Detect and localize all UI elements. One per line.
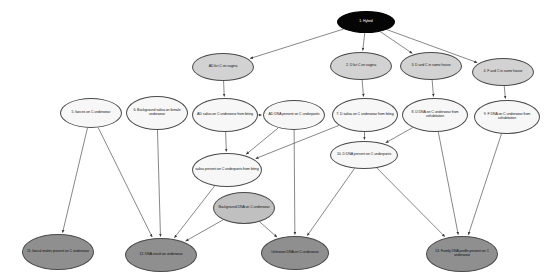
node-label: 10. D DNA present on C underpants xyxy=(333,153,395,157)
node-n12[interactable]: 12. DNA result on underwear xyxy=(125,238,197,272)
node-label: 12. DNA result on underwear xyxy=(128,253,194,257)
node-nS[interactable]: saliva present on C underpants from biti… xyxy=(192,153,262,187)
node-label: 13. Family DNA profile present on C unde… xyxy=(429,250,495,257)
node-n4[interactable]: 4. F and C in same house xyxy=(472,58,534,86)
node-nAD1[interactable]: AD lict C on vagina xyxy=(192,53,254,81)
node-label: Unknown DNA on C underwear xyxy=(264,251,326,255)
edge-n1-to-n3 xyxy=(380,32,412,54)
node-n11[interactable]: 11. faecal matter present on C underwear xyxy=(22,234,94,270)
node-n5[interactable]: 5. faeces on C underwear xyxy=(60,98,122,128)
edge-nAD3-to-nU xyxy=(294,130,295,235)
edge-n2-to-n7 xyxy=(362,80,363,97)
node-nAD3[interactable]: AD DNA present on C underpants xyxy=(263,100,325,130)
edge-n1-to-n2 xyxy=(363,33,365,51)
node-n7[interactable]: 7. D saliva on C underwear from biting xyxy=(332,98,398,132)
node-label: 9. F DNA on C underwear from cohabitatio… xyxy=(477,113,537,120)
node-label: 7. D saliva on C underwear from biting xyxy=(335,113,395,117)
edge-n8-to-n10 xyxy=(386,128,413,143)
node-label: AD lict C on vagina xyxy=(195,65,251,69)
edge-n8-to-n13 xyxy=(438,132,458,235)
node-label: 5. faeces on C underwear xyxy=(63,111,119,115)
edge-n10-to-nU xyxy=(307,168,354,235)
node-n1[interactable]: 1. Hybrid xyxy=(337,11,395,33)
edge-n4-to-n9 xyxy=(504,86,505,99)
edge-nBG-to-nU xyxy=(260,222,277,237)
edge-n9-to-n13 xyxy=(468,134,501,235)
node-label: AD DNA present on C underpants xyxy=(266,113,322,117)
edge-nAD2-to-nS xyxy=(226,132,227,152)
edge-nAD1-to-nAD2 xyxy=(224,81,225,97)
node-label: 1. Hybrid xyxy=(340,20,392,24)
node-label: 2. D lict C on vagina xyxy=(333,64,389,68)
edge-n3-to-n8 xyxy=(432,80,433,97)
node-nU[interactable]: Unknown DNA on C underwear xyxy=(261,236,329,270)
node-label: AD saliva on C underwear from biting xyxy=(195,113,255,117)
node-label: 4. F and C in same house xyxy=(475,70,531,74)
node-label: 6. Background saliva on female underwear xyxy=(129,109,185,116)
edge-n7-to-nS xyxy=(256,125,339,158)
node-nBG[interactable]: Background DNA on C underwear xyxy=(213,192,275,224)
edge-nAD3-to-nS xyxy=(246,128,278,154)
diagram-canvas: 1. Hybrid2. D lict C on vagina3. D and C… xyxy=(0,0,546,280)
node-label: 3. D and C in same house xyxy=(403,64,459,68)
edge-nS-to-n12 xyxy=(174,186,214,238)
edge-n5-to-n12 xyxy=(98,128,152,237)
edge-n10-to-n13 xyxy=(377,168,445,237)
node-label: saliva present on C underpants from biti… xyxy=(195,168,259,172)
node-n8[interactable]: 8. D DNA on C underwear from cohabitatio… xyxy=(402,98,468,132)
node-n3[interactable]: 3. D and C in same house xyxy=(400,52,462,80)
edge-n6-to-n12 xyxy=(157,130,160,237)
edge-n5-to-n11 xyxy=(63,128,88,233)
node-n6[interactable]: 6. Background saliva on female underwear xyxy=(126,96,188,130)
node-n2[interactable]: 2. D lict C on vagina xyxy=(330,52,392,80)
node-n13[interactable]: 13. Family DNA profile present on C unde… xyxy=(426,236,498,272)
node-n10[interactable]: 10. D DNA present on C underpants xyxy=(330,141,398,169)
node-label: 8. D DNA on C underwear from cohabitatio… xyxy=(405,111,465,118)
node-nAD2[interactable]: AD saliva on C underwear from biting xyxy=(192,98,258,132)
node-label: Background DNA on C underwear xyxy=(216,206,272,210)
node-n9[interactable]: 9. F DNA on C underwear from cohabitatio… xyxy=(474,100,540,134)
edge-n1-to-nAD1 xyxy=(250,29,344,58)
edge-nBG-to-n12 xyxy=(186,220,223,241)
node-label: 11. faecal matter present on C underwear xyxy=(25,250,91,254)
